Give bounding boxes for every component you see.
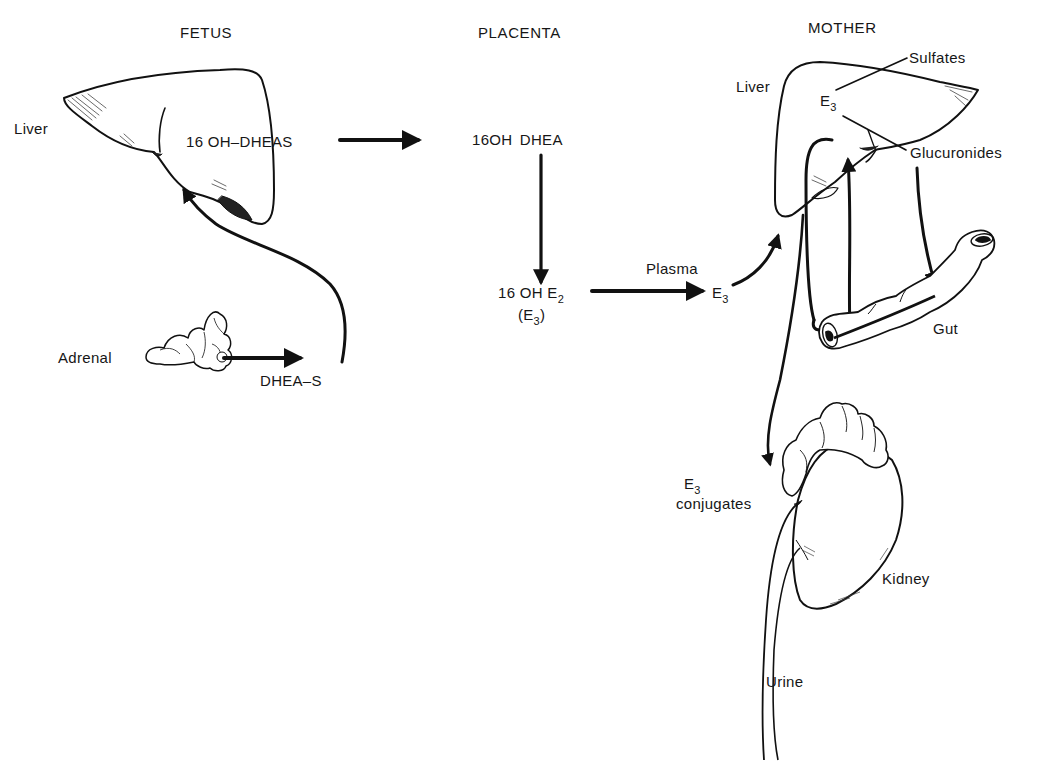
fetal-adrenal-organ <box>146 312 232 371</box>
placenta-product-label: 16 OH E2 <box>498 284 564 303</box>
maternal-liver-label: Liver <box>736 78 770 95</box>
estriol-alt-text: (E <box>518 306 534 323</box>
estradiol-text: 16 OH E <box>498 284 558 301</box>
fetal-liver-metabolite-label: 16 OH–DHEAS <box>186 133 293 150</box>
e3-conjugates-label: conjugates <box>676 495 752 512</box>
fetal-adrenal-label: Adrenal <box>58 349 112 366</box>
conjugates-e3-text: E <box>684 475 694 492</box>
estriol-synthesis-diagram: FETUS PLACENTA MOTHER Liver 16 OH–DHEAS … <box>0 0 1049 780</box>
column-header-mother: MOTHER <box>808 19 877 36</box>
liver-to-kidney-arrow <box>768 215 803 464</box>
estradiol-subscript: 2 <box>558 293 564 305</box>
plasma-e3-label: E3 <box>712 284 729 303</box>
fetal-liver-label: Liver <box>14 120 48 137</box>
glucuronides-label: Glucuronides <box>910 144 1002 161</box>
urine-label: Urine <box>766 673 803 690</box>
column-header-fetus: FETUS <box>180 24 232 41</box>
e3-conjugates-e3-label: E3 <box>684 475 701 494</box>
placenta-precursor-label: 16OH DHEA <box>472 131 563 148</box>
placenta-product-alt-label: (E3) <box>518 306 545 325</box>
liver-e3-text: E <box>820 92 830 109</box>
gut-label: Gut <box>933 320 958 337</box>
plasma-e3-subscript: 3 <box>722 293 728 305</box>
diagram-artwork <box>0 0 1049 780</box>
sulfates-label: Sulfates <box>909 49 966 66</box>
plasma-e3-text: E <box>712 284 722 301</box>
estriol-alt-close: ) <box>540 306 545 323</box>
column-header-placenta: PLACENTA <box>478 24 561 41</box>
maternal-liver-e3-label: E3 <box>820 92 837 111</box>
dhea-s-label: DHEA–S <box>260 372 322 389</box>
kidney-label: Kidney <box>882 570 930 587</box>
liver-e3-subscript: 3 <box>830 101 836 113</box>
estriol-alt-subscript: 3 <box>534 315 540 327</box>
gut-organ <box>819 230 994 348</box>
plasma-label: Plasma <box>646 260 698 277</box>
